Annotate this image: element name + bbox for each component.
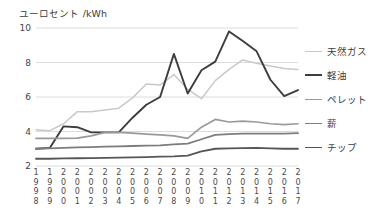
- x-tick-label: 2001: [71, 168, 83, 206]
- line-chart: ユーロセント /kWh 246810 199819992000200120022…: [0, 0, 383, 217]
- series-line-ペレット: [36, 119, 298, 138]
- x-tick-label: 2003: [99, 168, 111, 206]
- legend-item-軽油[interactable]: 軽油: [305, 68, 347, 82]
- x-tick-label: 2009: [182, 168, 194, 206]
- legend-swatch-icon: [305, 74, 322, 76]
- x-tick-label: 2007: [154, 168, 166, 206]
- y-axis-title: ユーロセント /kWh: [19, 6, 107, 20]
- legend-swatch-icon: [305, 123, 322, 124]
- y-tick-label: 8: [25, 58, 31, 68]
- x-tick-label: 2015: [264, 168, 276, 206]
- y-tick-label: 6: [25, 92, 31, 102]
- legend-label: ペレット: [327, 92, 367, 106]
- x-tick-label: 1998: [30, 168, 42, 206]
- legend-item-ペレット[interactable]: ペレット: [305, 92, 367, 106]
- series-lines: [36, 31, 298, 158]
- x-tick-label: 2012: [223, 168, 235, 206]
- x-tick-label: 2004: [113, 168, 125, 206]
- legend-item-チップ[interactable]: チップ: [305, 140, 357, 154]
- x-tick-label: 1999: [44, 168, 56, 206]
- x-tick-label: 2014: [251, 168, 263, 206]
- x-tick-label: 2002: [85, 168, 97, 206]
- x-tick-label: 2005: [127, 168, 139, 206]
- plot-area: [36, 28, 298, 166]
- legend-item-薪[interactable]: 薪: [305, 116, 337, 130]
- x-tick-label: 2017: [292, 168, 304, 206]
- legend-swatch-icon: [305, 147, 322, 148]
- x-tick-label: 2010: [195, 168, 207, 206]
- legend-label: 薪: [327, 116, 337, 130]
- plot-svg: [36, 28, 298, 166]
- legend-item-天然ガス[interactable]: 天然ガス: [305, 44, 367, 58]
- x-tick-label: 2016: [278, 168, 290, 206]
- x-tick-label: 2011: [209, 168, 221, 206]
- x-tick-label: 2008: [168, 168, 180, 206]
- legend-label: 軽油: [327, 68, 347, 82]
- x-axis-tick-labels: 1998199920002001200220032004200520062007…: [36, 168, 298, 214]
- legend-swatch-icon: [305, 51, 322, 52]
- x-tick-label: 2000: [58, 168, 70, 206]
- legend-label: チップ: [327, 140, 357, 154]
- series-line-天然ガス: [36, 60, 298, 131]
- legend-label: 天然ガス: [327, 44, 367, 58]
- y-tick-label: 4: [25, 127, 31, 137]
- y-tick-label: 10: [20, 23, 31, 33]
- series-line-チップ: [36, 148, 298, 159]
- x-tick-label: 2013: [237, 168, 249, 206]
- x-tick-label: 2006: [140, 168, 152, 206]
- legend-swatch-icon: [305, 99, 322, 100]
- y-axis-tick-labels: 246810: [0, 28, 36, 166]
